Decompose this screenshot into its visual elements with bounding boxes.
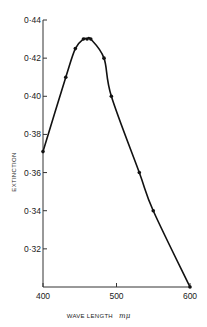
y-tick-label: 0·42 <box>24 53 41 63</box>
x-axis-title: WAVE LENGTH <box>67 313 113 319</box>
data-point <box>188 285 192 289</box>
x-tick-label: 400 <box>36 291 50 301</box>
data-point <box>89 37 93 41</box>
y-axis-title: EXTINCTION <box>11 152 17 191</box>
data-point <box>64 75 68 79</box>
y-tick-label: 0·44 <box>24 15 41 25</box>
data-point <box>82 37 86 41</box>
x-axis: 400500600 <box>36 283 197 301</box>
data-point <box>102 56 106 60</box>
x-tick-label: 500 <box>109 291 123 301</box>
data-point <box>110 94 114 98</box>
data-point <box>74 47 78 51</box>
y-tick-label: 0·36 <box>24 168 41 178</box>
x-axis-unit: mμ <box>119 312 131 320</box>
data-point <box>137 171 141 175</box>
extinction-curve <box>43 38 190 287</box>
y-tick-label: 0·34 <box>24 206 41 216</box>
data-points <box>41 37 192 289</box>
y-tick-label: 0·32 <box>24 244 41 254</box>
x-tick-label: 600 <box>183 291 197 301</box>
data-point <box>85 37 89 41</box>
extinction-chart: 0·320·340·360·380·400·420·44 400500600 E… <box>0 0 207 327</box>
data-point <box>41 150 45 154</box>
data-point <box>151 209 155 213</box>
y-tick-label: 0·38 <box>24 129 41 139</box>
y-tick-label: 0·40 <box>24 91 41 101</box>
